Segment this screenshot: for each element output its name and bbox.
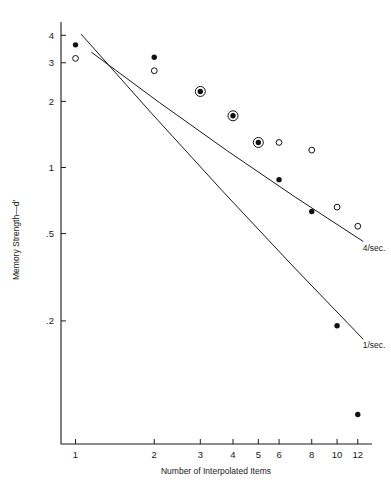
chart-axes bbox=[61, 22, 372, 444]
fit-line bbox=[91, 52, 363, 241]
data-point-filled bbox=[230, 113, 235, 118]
x-axis-title: Number of Interpolated Items bbox=[161, 466, 271, 476]
y-tick-label: 3 bbox=[49, 57, 54, 68]
data-point-filled bbox=[334, 323, 339, 328]
x-tick-label: 12 bbox=[352, 449, 363, 460]
data-points-group bbox=[73, 42, 361, 417]
x-tick-label: 1 bbox=[73, 449, 78, 460]
fit-lines-group bbox=[81, 34, 363, 339]
fit-line bbox=[81, 34, 363, 339]
y-tick-label: 1 bbox=[49, 162, 54, 173]
x-tick-label: 3 bbox=[198, 449, 203, 460]
x-tick-label: 5 bbox=[256, 449, 261, 460]
data-point-filled bbox=[73, 42, 78, 47]
data-point-filled bbox=[152, 54, 157, 59]
y-tick-label: 4 bbox=[49, 30, 54, 41]
data-point-filled bbox=[355, 412, 360, 417]
x-tick-label: 2 bbox=[152, 449, 157, 460]
data-point-filled bbox=[256, 140, 261, 145]
data-point-open bbox=[73, 56, 79, 62]
data-point-open bbox=[309, 147, 315, 153]
fit-line-label: 4/sec. bbox=[363, 243, 386, 253]
x-tick-label: 8 bbox=[309, 449, 314, 460]
data-point-open bbox=[355, 223, 361, 229]
y-tick-label: .2 bbox=[46, 315, 54, 326]
data-point-filled bbox=[276, 177, 281, 182]
x-tick-label: 4 bbox=[230, 449, 235, 460]
chart-figure: 12345681012 4321.5.2 4/sec.1/sec. Number… bbox=[0, 0, 391, 484]
data-point-open bbox=[151, 68, 157, 74]
data-point-open bbox=[334, 204, 340, 210]
y-axis-ticks: 4321.5.2 bbox=[46, 30, 66, 327]
axis-lines bbox=[61, 22, 372, 444]
x-axis-ticks: 12345681012 bbox=[73, 439, 363, 460]
x-tick-label: 6 bbox=[276, 449, 281, 460]
x-tick-label: 10 bbox=[332, 449, 343, 460]
curve-labels-group: 4/sec.1/sec. bbox=[363, 243, 386, 350]
data-point-open bbox=[276, 140, 282, 146]
data-point-filled bbox=[198, 89, 203, 94]
data-point-filled bbox=[309, 209, 314, 214]
fit-line-label: 1/sec. bbox=[363, 340, 386, 350]
y-tick-label: 2 bbox=[49, 96, 54, 107]
y-axis-title: Memory Strength—d′ bbox=[11, 200, 21, 280]
y-tick-label: .5 bbox=[46, 228, 54, 239]
scatter-plot-svg: 12345681012 4321.5.2 4/sec.1/sec. Number… bbox=[0, 0, 391, 484]
